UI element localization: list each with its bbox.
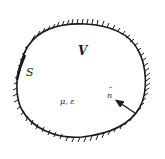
- medium-parameters-label: μ, ε: [60, 98, 75, 106]
- diagram-canvas: V S μ, ε ^ n: [0, 0, 165, 159]
- boundary-surface-s: [17, 24, 146, 137]
- surface-diagram-svg: [0, 0, 165, 159]
- volume-label: V: [78, 45, 87, 57]
- normal-vector-label: ^ n: [107, 92, 112, 100]
- surface-label: S: [26, 67, 34, 78]
- normal-hat-symbol: ^: [108, 86, 113, 92]
- normal-vector-arrow: [117, 101, 135, 113]
- surface-s-emphasis: [17, 55, 25, 80]
- normal-letter: n: [107, 91, 112, 100]
